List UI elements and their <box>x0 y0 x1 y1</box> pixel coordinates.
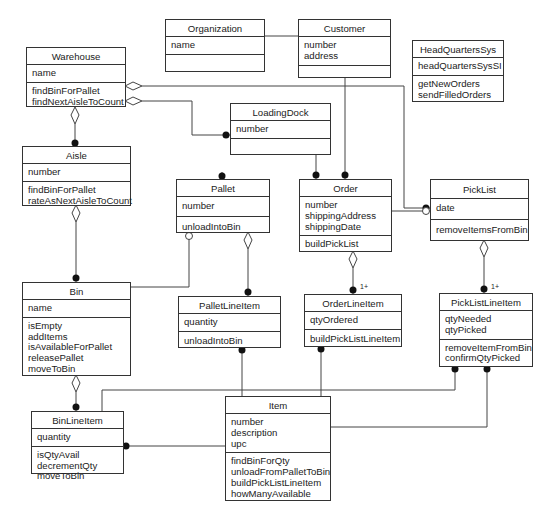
many-dot-icon <box>350 287 357 294</box>
operations: findBinForPallet rateAsNextAisleToCount <box>23 181 130 210</box>
assoc-pallet-bin <box>130 238 189 287</box>
operation: rateAsNextAisleToCount <box>28 196 125 207</box>
class-order[interactable]: Order number shippingAddress shippingDat… <box>299 179 392 252</box>
operation: buildPickListLineItem <box>310 334 396 345</box>
operations: isEmpty addItems isAvailableForPallet re… <box>23 317 130 378</box>
aggregation-diamond-icon <box>125 97 142 105</box>
many-dot-icon <box>313 172 320 179</box>
operation: findNextAisleToCount <box>32 97 120 108</box>
operation: removeItemsFromBin <box>436 225 523 236</box>
attributes: name <box>23 300 130 317</box>
multiplicity-picklist-picklistlineitem: 1+ <box>491 283 499 290</box>
class-binlineitem[interactable]: BinLineItem quantity isQtyAvail decremen… <box>31 411 124 474</box>
operations: removeItemsFromBin <box>431 219 528 239</box>
class-headquarterssys[interactable]: HeadQuartersSys headQuartersSysSI getNew… <box>412 40 504 102</box>
attributes: number address <box>299 37 390 65</box>
class-name: Pallet <box>177 180 269 197</box>
many-dot-icon <box>481 286 488 293</box>
operation: unloadIntoBin <box>184 336 275 347</box>
operation: findBinForPallet <box>32 86 120 97</box>
operation: confirmQtyPicked <box>445 353 527 364</box>
attributes: number shippingAddress shippingDate <box>300 197 391 235</box>
class-palletlineitem[interactable]: PalletLineItem quantity unloadIntoBin <box>178 296 281 348</box>
many-dot-icon <box>73 404 80 411</box>
many-dot-icon <box>342 172 349 179</box>
operations <box>299 65 390 80</box>
operation: isEmpty <box>28 321 125 332</box>
class-name: OrderLineItem <box>305 295 401 312</box>
attribute: qtyPicked <box>445 325 527 336</box>
attribute: number <box>182 201 264 212</box>
aggregation-diamond-icon <box>480 240 488 257</box>
operations: unloadIntoBin <box>179 331 280 350</box>
operation: getNewOrders <box>418 79 498 90</box>
attribute: shippingAddress <box>305 211 386 222</box>
attributes: number <box>177 197 269 216</box>
assoc-warehouse-loadingdock <box>142 101 230 135</box>
operations: removeItemFromBin confirmQtyPicked <box>440 339 532 368</box>
multiplicity-order-orderlineitem: 1+ <box>360 283 368 290</box>
operation: moveToBin <box>37 471 118 482</box>
attributes: number <box>23 164 130 181</box>
class-name: Order <box>300 180 391 197</box>
class-warehouse[interactable]: Warehouse name findBinForPallet findNext… <box>26 47 126 107</box>
assoc-picklistlineitem-item <box>330 372 487 427</box>
class-name: BinLineItem <box>32 412 123 429</box>
operations: findBinForQty unloadFromPalletToBin buil… <box>226 452 330 502</box>
operations <box>231 138 330 157</box>
class-name: Customer <box>299 20 390 37</box>
class-item[interactable]: Item number description upc findBinForQt… <box>225 396 331 501</box>
many-dot-icon <box>223 132 230 139</box>
attribute: headQuartersSysSI <box>418 61 498 72</box>
attributes: headQuartersSysSI <box>413 58 503 75</box>
attributes: qtyOrdered <box>305 312 401 329</box>
class-picklistlineitem[interactable]: PickListLineItem qtyNeeded qtyPicked rem… <box>439 293 533 367</box>
operation: sendFilledOrders <box>418 90 498 101</box>
attributes: date <box>431 199 528 219</box>
operation: findBinForPallet <box>28 185 125 196</box>
class-organization[interactable]: Organization name <box>165 19 265 72</box>
aggregation-diamond-icon <box>349 251 357 268</box>
attribute: number <box>236 124 325 135</box>
attributes: qtyNeeded qtyPicked <box>440 311 532 339</box>
attribute: upc <box>231 439 325 450</box>
attribute: qtyOrdered <box>310 315 396 326</box>
class-picklist[interactable]: PickList date removeItemsFromBin <box>430 179 529 241</box>
attribute: number <box>28 167 125 178</box>
class-name: Item <box>226 397 330 414</box>
class-name: LoadingDock <box>231 104 330 121</box>
attribute: address <box>304 51 385 62</box>
class-name: PickList <box>431 180 528 199</box>
class-pallet[interactable]: Pallet number unloadIntoBin <box>176 179 270 233</box>
class-name: Organization <box>166 20 264 37</box>
class-name: Warehouse <box>27 48 125 65</box>
class-name: Aisle <box>23 147 130 164</box>
operation: howManyAvailable <box>231 489 325 500</box>
attribute: name <box>171 40 259 51</box>
operations: unloadIntoBin <box>177 216 269 236</box>
attributes: quantity <box>32 429 123 446</box>
attribute: quantity <box>37 432 118 443</box>
class-orderlineitem[interactable]: OrderLineItem qtyOrdered buildPickListLi… <box>304 294 402 347</box>
class-name: HeadQuartersSys <box>413 41 503 58</box>
attributes: number <box>231 121 330 138</box>
class-loadingdock[interactable]: LoadingDock number <box>230 103 331 155</box>
operations: isQtyAvail decrementQty moveToBin <box>32 446 123 485</box>
attribute: date <box>436 203 523 214</box>
class-name: PalletLineItem <box>179 297 280 314</box>
operation: unloadIntoBin <box>182 222 264 233</box>
class-customer[interactable]: Customer number address <box>298 19 391 78</box>
many-dot-icon <box>73 275 80 282</box>
class-aisle[interactable]: Aisle number findBinForPallet rateAsNext… <box>22 146 131 206</box>
operation: buildPickList <box>305 239 386 250</box>
class-name: PickListLineItem <box>440 294 532 311</box>
operations: buildPickListLineItem <box>305 329 401 348</box>
operations: buildPickList <box>300 235 391 253</box>
operation: moveToBin <box>28 364 125 375</box>
aggregation-diamond-icon <box>125 82 142 90</box>
attribute: quantity <box>184 317 275 328</box>
attributes: name <box>27 65 125 82</box>
attribute: description <box>231 428 325 439</box>
many-dot-icon <box>245 289 252 296</box>
class-bin[interactable]: Bin name isEmpty addItems isAvailableFor… <box>22 282 131 376</box>
